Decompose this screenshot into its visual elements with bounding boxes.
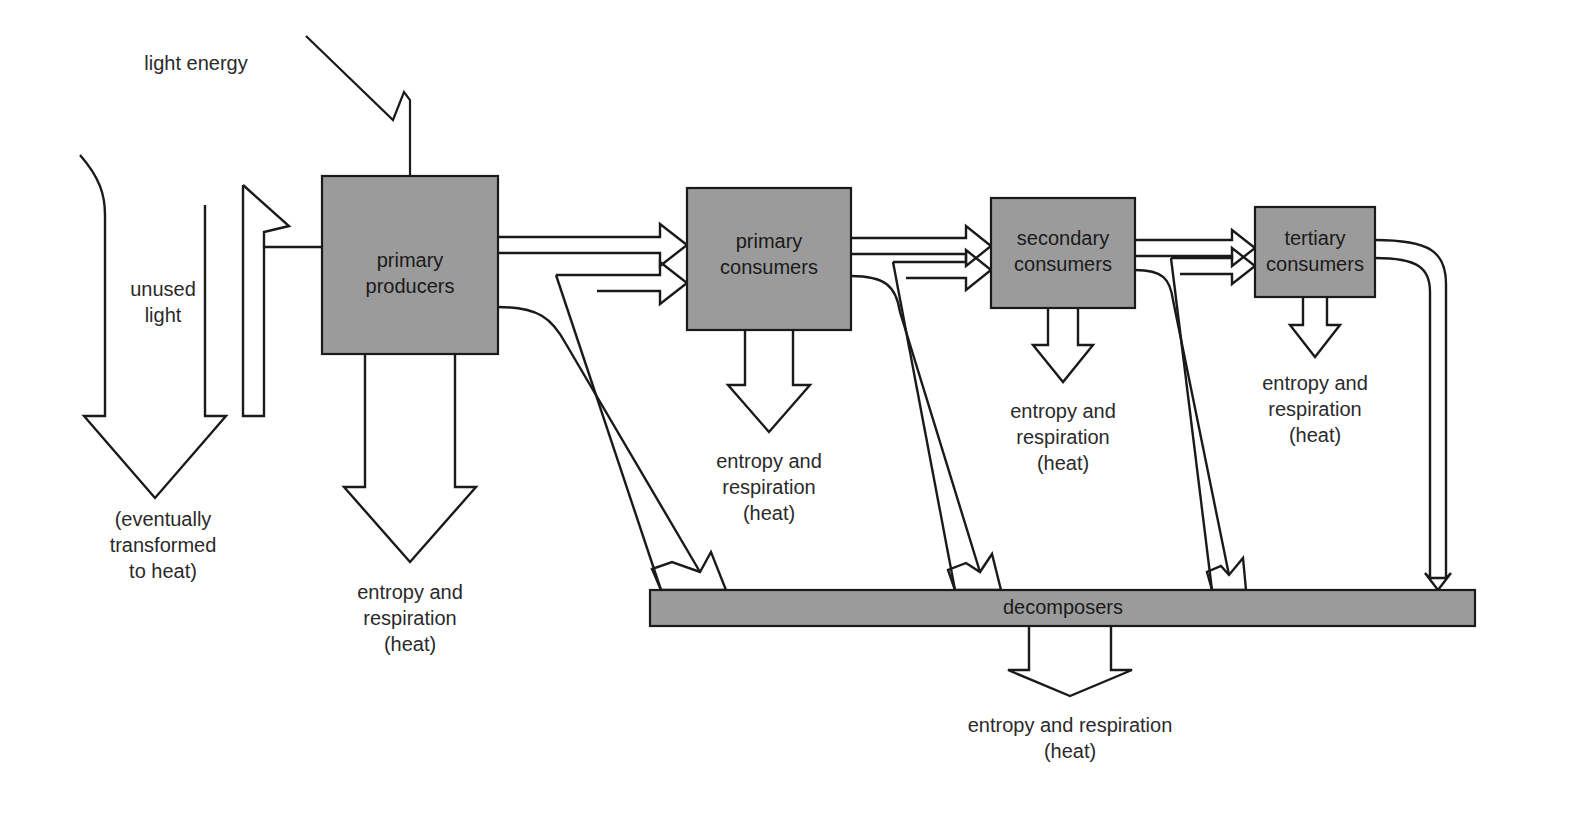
decomposers-heat-caption-line1: entropy and respiration (968, 714, 1173, 736)
secondary-consumers-detritus-inflow (1171, 248, 1255, 284)
secondary-consumers-to-decomposers-channel (1135, 270, 1229, 575)
diagram-canvas: primary producers primary consumers seco… (0, 0, 1571, 828)
unused-light-arrow (80, 155, 226, 498)
tertiary-consumers-box[interactable] (1255, 207, 1375, 297)
primary-consumers-to-decomposers-channel-edge (893, 262, 955, 590)
tertiary-consumers-decomposers-arrowhead (1425, 573, 1451, 590)
secondary-consumers-heat-caption-line2: respiration (1016, 426, 1109, 448)
producers-heat-caption-line2: respiration (363, 607, 456, 629)
unused-light-caption-line2: light (145, 304, 182, 326)
light-into-producers-arrowhead (243, 185, 289, 247)
tertiary-consumers-heat-caption-line2: respiration (1268, 398, 1361, 420)
producers-heat-caption-line3: (heat) (384, 633, 436, 655)
secondary-consumers-heat-caption-line1: entropy and (1010, 400, 1116, 422)
secondary-consumers-to-decomposers-channel-edge (1171, 258, 1212, 590)
primary-producers-label-line1: primary (377, 249, 444, 271)
producers-to-decomposers-channel (498, 307, 700, 572)
producers-heat-caption-line1: entropy and (357, 581, 463, 603)
secondary-consumers-label-line1: secondary (1017, 227, 1109, 249)
decomposers-label: decomposers (1003, 596, 1123, 618)
decomposers-entropy-arrow (1008, 626, 1132, 696)
primary-consumers-to-decomposers-channel (851, 276, 980, 572)
light-energy-caption: light energy (144, 52, 247, 74)
secondary-consumers-heat-caption-line3: (heat) (1037, 452, 1089, 474)
producers-to-decomposers-channel-edge (556, 275, 661, 590)
decomposers-heat-caption-line2: (heat) (1044, 740, 1096, 762)
primary-consumers-entropy-arrow (728, 330, 810, 432)
primary-consumers-label-line2: consumers (720, 256, 818, 278)
tertiary-consumers-to-decomposers-channel (1375, 240, 1446, 578)
eventually-heat-caption-line3: to heat) (129, 560, 197, 582)
light-energy-arrow (306, 36, 410, 176)
energy-flow-diagram: primary producers primary consumers seco… (0, 0, 1571, 828)
tertiary-consumers-to-decomposers-channel-edge (1375, 258, 1430, 578)
producers-to-primary-consumers-arrow (498, 224, 687, 266)
unused-light-caption-line1: unused (130, 278, 196, 300)
primary-consumers-heat-caption-line1: entropy and (716, 450, 822, 472)
secondary-consumers-label-line2: consumers (1014, 253, 1112, 275)
tertiary-consumers-label-line2: consumers (1266, 253, 1364, 275)
primary-consumers-decomposers-arrowhead (948, 554, 1001, 590)
tertiary-consumers-entropy-arrow (1290, 297, 1340, 357)
tertiary-consumers-heat-caption-line3: (heat) (1289, 424, 1341, 446)
eventually-heat-caption-line1: (eventually (115, 508, 212, 530)
eventually-heat-caption-line2: transformed (110, 534, 217, 556)
secondary-consumers-entropy-arrow (1033, 308, 1093, 382)
secondary-to-tertiary-consumers-arrow (1135, 230, 1255, 266)
primary-consumers-heat-caption-line2: respiration (722, 476, 815, 498)
tertiary-consumers-heat-caption-line1: entropy and (1262, 372, 1368, 394)
primary-consumers-label-line1: primary (736, 230, 803, 252)
tertiary-consumers-label-line1: tertiary (1284, 227, 1345, 249)
primary-producers-label-line2: producers (366, 275, 455, 297)
producers-entropy-arrow (344, 354, 476, 562)
detritus-inflow-upper-edge (556, 262, 687, 304)
primary-consumers-heat-caption-line3: (heat) (743, 502, 795, 524)
producers-decomposers-arrowhead (652, 552, 726, 590)
primary-to-secondary-consumers-arrow (851, 226, 991, 266)
primary-consumers-detritus-inflow (893, 250, 991, 290)
